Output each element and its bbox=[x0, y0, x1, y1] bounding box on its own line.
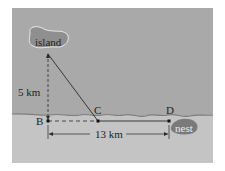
island-label: island bbox=[35, 36, 62, 48]
point-c-marker bbox=[97, 120, 100, 123]
point-b-label: B bbox=[36, 115, 43, 127]
water-region bbox=[12, 8, 213, 116]
island-nest-diagram: island nest 5 km B C D 13 km bbox=[0, 0, 225, 171]
horizontal-distance-label: 13 km bbox=[95, 128, 123, 140]
point-b-marker bbox=[47, 120, 50, 123]
nest-label: nest bbox=[175, 122, 193, 134]
vertical-distance-label: 5 km bbox=[18, 86, 41, 98]
point-d-marker bbox=[168, 120, 171, 123]
point-d-label: D bbox=[166, 104, 174, 116]
point-c-label: C bbox=[94, 104, 101, 116]
